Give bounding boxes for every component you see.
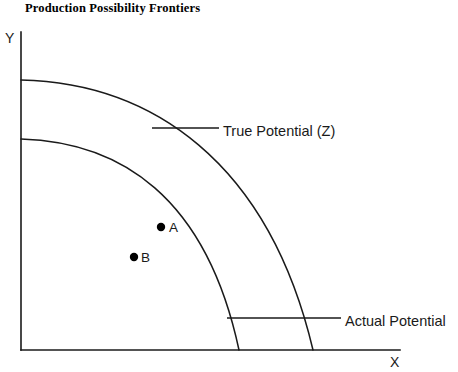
actual-potential-curve	[21, 139, 239, 350]
ppf-canvas: True Potential (Z) Actual Potential Y X …	[0, 0, 458, 372]
y-axis-label: Y	[5, 30, 15, 46]
point-b-label: B	[141, 250, 150, 265]
ppf-diagram: Production Possibility Frontiers True Po…	[0, 0, 458, 372]
page-title: Production Possibility Frontiers	[25, 1, 200, 16]
true-potential-curve	[21, 80, 313, 350]
x-axis-label: X	[390, 354, 400, 370]
point-b-dot	[130, 253, 138, 261]
actual-potential-label: Actual Potential	[345, 313, 446, 329]
point-a-label: A	[169, 220, 178, 235]
point-a-dot	[157, 223, 165, 231]
true-potential-label: True Potential (Z)	[223, 123, 335, 139]
